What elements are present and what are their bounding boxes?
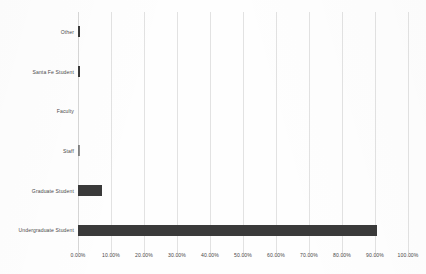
tick-mark [276, 250, 277, 253]
category-label-other: Other [0, 29, 74, 35]
value-axis-labels: 0.00%10.00%20.00%30.00%40.00%50.00%60.00… [78, 252, 408, 266]
x-axis-tick-label: 60.00% [267, 252, 285, 259]
tick-mark [342, 250, 343, 253]
category-label-graduate-student: Graduate Student [0, 188, 74, 194]
tick-mark [144, 250, 145, 253]
x-axis-tick-label: 100.00% [398, 252, 419, 259]
bar-row [78, 106, 408, 117]
plot-area [78, 12, 408, 250]
tick-mark [375, 250, 376, 253]
tick-mark [78, 250, 79, 253]
category-label-faculty: Faculty [0, 108, 74, 114]
bar [78, 145, 80, 156]
category-label-staff: Staff [0, 148, 74, 154]
bar [78, 185, 102, 196]
tick-mark [210, 250, 211, 253]
bar [78, 66, 80, 77]
bar-row [78, 66, 408, 77]
bar-row [78, 145, 408, 156]
tick-mark [408, 250, 409, 253]
category-label-santa-fe-student: Santa Fe Student [0, 69, 74, 75]
bar-rows [78, 12, 408, 250]
bar-chart: OtherSanta Fe StudentFacultyStaffGraduat… [0, 0, 426, 274]
bar-row [78, 26, 408, 37]
tick-mark [309, 250, 310, 253]
x-axis-tick-label: 20.00% [135, 252, 153, 259]
bar [78, 26, 80, 37]
x-axis-tick-label: 80.00% [333, 252, 351, 259]
tick-mark [243, 250, 244, 253]
x-axis-tick-label: 0.00% [71, 252, 86, 259]
x-axis-tick-label: 30.00% [168, 252, 186, 259]
x-axis-tick-label: 10.00% [102, 252, 120, 259]
x-axis-tick-label: 50.00% [234, 252, 252, 259]
x-axis-tick-label: 90.00% [366, 252, 384, 259]
gridline-100.00% [408, 12, 409, 250]
x-axis-tick-label: 70.00% [300, 252, 318, 259]
tick-mark [177, 250, 178, 253]
tick-mark [111, 250, 112, 253]
bar-row [78, 185, 408, 196]
bar-row [78, 225, 408, 236]
bar [78, 225, 377, 236]
x-axis-tick-label: 40.00% [201, 252, 219, 259]
category-axis-labels: OtherSanta Fe StudentFacultyStaffGraduat… [0, 12, 74, 250]
category-label-undergraduate-student: Undergraduate Student [0, 227, 74, 233]
